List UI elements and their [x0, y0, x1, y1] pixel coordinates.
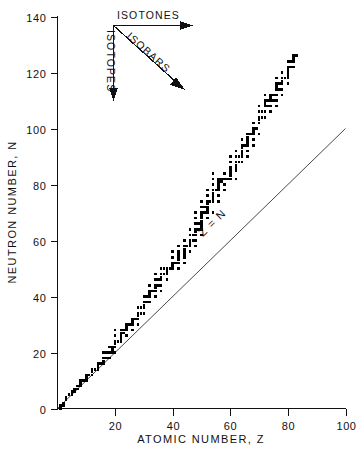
data-point [192, 234, 195, 237]
data-point [281, 80, 284, 83]
data-point [177, 253, 180, 256]
data-point [289, 60, 292, 63]
data-point [186, 245, 189, 248]
data-point [281, 82, 284, 85]
data-point [220, 178, 223, 181]
data-point [166, 278, 169, 281]
data-point [217, 200, 220, 203]
data-point [249, 133, 252, 136]
isotones-arrow-head [180, 21, 193, 30]
data-point [171, 250, 174, 253]
data-point [102, 362, 105, 365]
data-point [122, 332, 125, 335]
x-tick-label: 60 [224, 420, 237, 432]
data-point [258, 133, 261, 136]
data-point [125, 329, 128, 332]
data-point [154, 273, 157, 276]
data-point [166, 273, 169, 276]
data-point [264, 94, 267, 97]
data-point [252, 130, 255, 133]
data-point [189, 234, 192, 237]
data-point [269, 105, 272, 108]
data-point [235, 155, 238, 158]
isotone-isotope-isobar-annotation: ISOTONES ISOTOPES ISOBARS [105, 9, 193, 101]
data-point [229, 169, 232, 172]
data-point [235, 150, 238, 153]
data-point [166, 270, 169, 273]
data-point [157, 278, 160, 281]
data-point [163, 273, 166, 276]
data-point [281, 77, 284, 80]
data-point [171, 264, 174, 267]
data-point [171, 262, 174, 265]
data-point [194, 239, 197, 242]
data-point [292, 60, 295, 63]
data-point [131, 320, 134, 323]
data-point [131, 323, 134, 326]
data-point [266, 105, 269, 108]
data-point [73, 388, 76, 391]
data-point [111, 351, 114, 354]
data-point [241, 138, 244, 141]
data-point [266, 99, 269, 102]
data-point [85, 374, 88, 377]
data-point [206, 194, 209, 197]
data-point [177, 245, 180, 248]
data-point [114, 351, 117, 354]
nuclide-chart-figure: 020406080100120140 20406080100 ISOTONES … [0, 0, 362, 460]
data-point [246, 136, 249, 139]
data-point [189, 228, 192, 231]
data-point [287, 68, 290, 71]
data-point [102, 360, 105, 363]
data-point [217, 178, 220, 181]
data-point [143, 295, 146, 298]
data-point [287, 60, 290, 63]
data-point [241, 150, 244, 153]
data-point [91, 368, 94, 371]
data-point [258, 116, 261, 119]
data-point [217, 180, 220, 183]
y-tick-label: 20 [33, 348, 46, 360]
data-point [275, 82, 278, 85]
data-point [169, 267, 172, 270]
data-point [183, 262, 186, 265]
data-point [145, 295, 148, 298]
data-point [189, 245, 192, 248]
data-point [275, 77, 278, 80]
data-point [264, 116, 267, 119]
data-point [143, 304, 146, 307]
data-point [194, 245, 197, 248]
data-point [97, 362, 100, 365]
data-point [258, 122, 261, 125]
data-point [206, 206, 209, 209]
data-point [246, 144, 249, 147]
data-point [91, 371, 94, 374]
data-point [143, 301, 146, 304]
data-point [85, 376, 88, 379]
y-tick-label: 100 [26, 124, 46, 136]
data-point [177, 250, 180, 253]
x-axis-ticks [116, 409, 347, 416]
data-point [223, 178, 226, 181]
data-point [125, 334, 128, 337]
data-point [197, 222, 200, 225]
data-point [125, 323, 128, 326]
x-tick-label: 20 [109, 420, 122, 432]
data-point [255, 127, 258, 130]
data-point [137, 315, 140, 318]
data-point [85, 379, 88, 382]
data-point [68, 393, 71, 396]
data-point [235, 166, 238, 169]
data-point [229, 175, 232, 178]
data-point [200, 214, 203, 217]
data-point [194, 217, 197, 220]
data-point [163, 267, 166, 270]
data-point [137, 306, 140, 309]
data-point [212, 200, 215, 203]
data-point [217, 186, 220, 189]
data-point [122, 329, 125, 332]
data-point [287, 74, 290, 77]
data-point [295, 54, 298, 57]
data-point [272, 94, 275, 97]
data-point [82, 379, 85, 382]
